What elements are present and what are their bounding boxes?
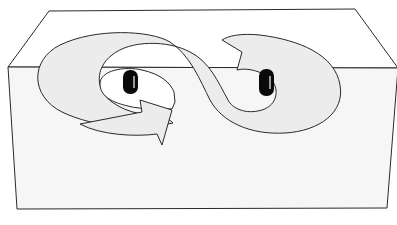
figure-eight-diagram [0, 0, 397, 225]
left-peg [123, 70, 138, 94]
right-peg [259, 69, 274, 96]
